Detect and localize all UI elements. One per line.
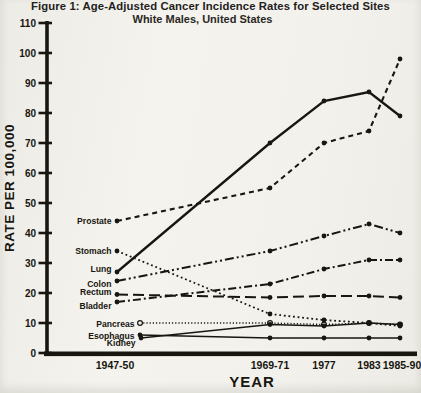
marker-filled-circle-esophagus <box>367 336 372 341</box>
marker-filled-circle-kidney <box>322 324 327 329</box>
y-tick-label: 50 <box>25 198 37 209</box>
marker-filled-circle-lung <box>268 141 273 146</box>
x-tick-label: 1977 <box>312 359 336 371</box>
marker-filled-circle-kidney <box>367 321 372 326</box>
marker-filled-circle-rectum <box>322 294 327 299</box>
x-tick-label: 1947-50 <box>96 359 135 371</box>
series-line-rectum <box>117 295 400 298</box>
series-label-stomach: Stomach <box>75 246 111 256</box>
marker-filled-circle-colon <box>367 222 372 227</box>
y-tick-label: 30 <box>25 258 37 269</box>
marker-filled-circle-stomach <box>268 312 273 317</box>
marker-filled-circle-kidney <box>268 322 273 327</box>
series-label-pancreas: Pancreas <box>96 319 134 329</box>
marker-filled-circle-esophagus <box>398 336 403 341</box>
y-tick-label: 80 <box>25 108 37 119</box>
marker-filled-circle-prostate <box>367 129 372 134</box>
marker-filled-circle-lung <box>322 99 327 104</box>
marker-filled-circle-esophagus <box>268 336 273 341</box>
y-tick-label: 90 <box>25 78 37 89</box>
x-axis-line <box>44 352 417 357</box>
marker-filled-circle-kidney <box>139 336 144 341</box>
y-tick-label: 60 <box>25 168 37 179</box>
marker-filled-circle-colon <box>322 234 327 239</box>
y-tick-label: 40 <box>25 228 37 239</box>
marker-filled-circle-lung <box>398 114 403 119</box>
y-tick-label: 70 <box>25 138 37 149</box>
y-tick-label: 0 <box>30 348 36 359</box>
marker-filled-circle-prostate <box>398 57 403 62</box>
series-line-lung <box>117 92 400 272</box>
marker-filled-circle-prostate <box>268 186 273 191</box>
marker-filled-circle-bladder <box>367 258 372 263</box>
marker-filled-circle-rectum <box>115 292 120 297</box>
series-label-bladder: Bladder <box>80 301 113 311</box>
series-line-colon <box>117 224 400 281</box>
marker-filled-circle-lung <box>115 270 120 275</box>
marker-filled-circle-rectum <box>398 295 403 300</box>
marker-open-circle-pancreas <box>138 321 143 326</box>
series-label-rectum: Rectum <box>80 287 112 297</box>
marker-filled-circle-lung <box>367 90 372 95</box>
marker-filled-circle-bladder <box>322 267 327 272</box>
x-tick-label: 1969-71 <box>251 359 290 371</box>
marker-filled-circle-prostate <box>322 141 327 146</box>
x-tick-label: 1983 <box>357 359 381 371</box>
y-tick-label: 110 <box>20 18 37 29</box>
scanned-figure-page: Figure 1: Age-Adjusted Cancer Incidence … <box>0 0 421 393</box>
series-label-prostate: Prostate <box>77 216 112 226</box>
y-tick-label: 100 <box>19 48 36 59</box>
marker-filled-circle-colon <box>268 249 273 254</box>
series-label-lung: Lung <box>91 264 112 274</box>
marker-filled-circle-colon <box>398 231 403 236</box>
y-axis-title: RATE PER 100,000 <box>2 124 17 252</box>
marker-filled-circle-rectum <box>268 295 273 300</box>
marker-filled-circle-colon <box>115 279 120 284</box>
marker-filled-circle-bladder <box>115 300 120 305</box>
marker-filled-circle-stomach <box>115 249 120 254</box>
marker-filled-circle-esophagus <box>322 336 327 341</box>
series-label-kidney: Kidney <box>107 338 136 348</box>
marker-filled-circle-rectum <box>367 294 372 299</box>
series-line-prostate <box>117 59 400 221</box>
marker-filled-circle-bladder <box>268 282 273 287</box>
marker-filled-circle-bladder <box>398 258 403 263</box>
marker-filled-circle-prostate <box>115 219 120 224</box>
marker-filled-circle-kidney <box>398 322 403 327</box>
y-tick-label: 20 <box>25 288 37 299</box>
x-axis-title: YEAR <box>229 373 275 390</box>
y-tick-label: 10 <box>25 318 37 329</box>
x-tick-label: 1985-90 <box>383 359 421 371</box>
cancer-incidence-line-chart: 01020304050607080901001101947-501969-711… <box>0 0 421 393</box>
